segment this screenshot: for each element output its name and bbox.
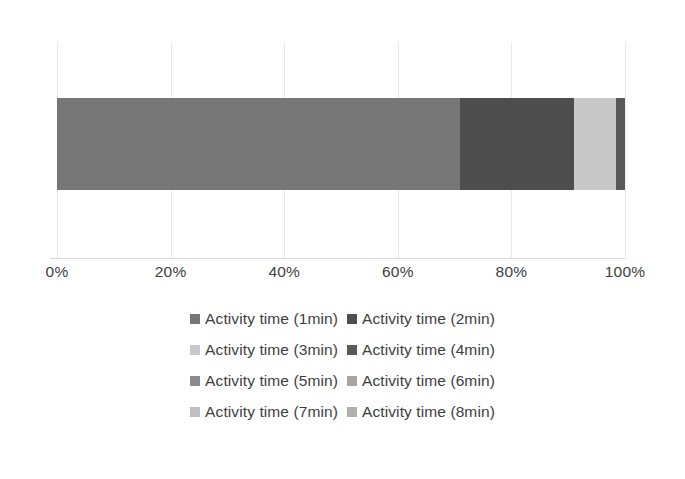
plot-area — [50, 42, 625, 259]
legend-swatch-icon — [347, 345, 357, 355]
legend-row: Activity time (5min)Activity time (6min) — [0, 365, 685, 396]
legend-label: Activity time (7min) — [205, 404, 338, 420]
bar-segment-4 — [616, 98, 625, 190]
legend-item[interactable]: Activity time (4min) — [347, 342, 495, 358]
legend-item[interactable]: Activity time (5min) — [190, 373, 338, 389]
legend-swatch-icon — [190, 314, 200, 324]
legend-label: Activity time (8min) — [362, 404, 495, 420]
legend-swatch-icon — [347, 376, 357, 386]
legend-item[interactable]: Activity time (8min) — [347, 404, 495, 420]
legend-item[interactable]: Activity time (3min) — [190, 342, 338, 358]
stacked-bar — [57, 98, 625, 190]
x-tick-label-80pct: 80% — [496, 263, 528, 281]
legend-swatch-icon — [190, 376, 200, 386]
x-tick-label-20pct: 20% — [155, 263, 187, 281]
legend-label: Activity time (1min) — [205, 311, 338, 327]
legend-item[interactable]: Activity time (6min) — [347, 373, 495, 389]
legend-item[interactable]: Activity time (2min) — [347, 311, 495, 327]
bar-segment-2 — [460, 98, 574, 190]
legend-item[interactable]: Activity time (1min) — [190, 311, 338, 327]
x-axis-line — [50, 258, 625, 259]
bar-segment-1 — [57, 98, 460, 190]
x-tick-label-60pct: 60% — [382, 263, 414, 281]
legend-swatch-icon — [190, 407, 200, 417]
x-axis-tick-labels: 0%20%40%60%80%100% — [50, 263, 625, 287]
chart-container: 0%20%40%60%80%100% Activity time (1min)A… — [0, 0, 685, 479]
bar-segment-3 — [574, 98, 617, 190]
legend-row: Activity time (3min)Activity time (4min) — [0, 334, 685, 365]
x-tick-label-0pct: 0% — [46, 263, 69, 281]
legend-item[interactable]: Activity time (7min) — [190, 404, 338, 420]
x-tick-label-40pct: 40% — [268, 263, 300, 281]
legend-swatch-icon — [190, 345, 200, 355]
legend-label: Activity time (3min) — [205, 342, 338, 358]
legend-label: Activity time (5min) — [205, 373, 338, 389]
legend-row: Activity time (1min)Activity time (2min) — [0, 303, 685, 334]
legend-row: Activity time (7min)Activity time (8min) — [0, 396, 685, 427]
legend-label: Activity time (4min) — [362, 342, 495, 358]
legend-label: Activity time (2min) — [362, 311, 495, 327]
gridline-100pct — [625, 42, 626, 259]
chart-legend: Activity time (1min)Activity time (2min)… — [0, 303, 685, 427]
legend-label: Activity time (6min) — [362, 373, 495, 389]
legend-swatch-icon — [347, 407, 357, 417]
x-tick-label-100pct: 100% — [605, 263, 645, 281]
legend-swatch-icon — [347, 314, 357, 324]
